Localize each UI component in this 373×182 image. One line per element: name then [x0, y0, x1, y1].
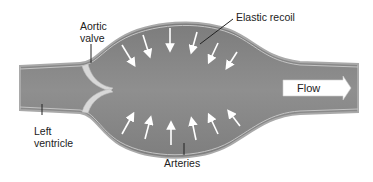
- diagram-canvas: Aortic valve Elastic recoil Flow Left ve…: [0, 0, 373, 182]
- left-ventricle-label: Left ventricle: [34, 125, 73, 149]
- left-ventricle-label-line2: ventricle: [34, 137, 73, 149]
- flow-label: Flow: [297, 82, 320, 94]
- elastic-recoil-label: Elastic recoil: [236, 11, 295, 23]
- aortic-valve-label-line2: valve: [80, 32, 107, 44]
- arteries-label: Arteries: [164, 157, 200, 169]
- aortic-valve-label-line1: Aortic: [80, 20, 107, 32]
- aortic-valve-label: Aortic valve: [80, 20, 107, 44]
- left-ventricle-label-line1: Left: [34, 125, 73, 137]
